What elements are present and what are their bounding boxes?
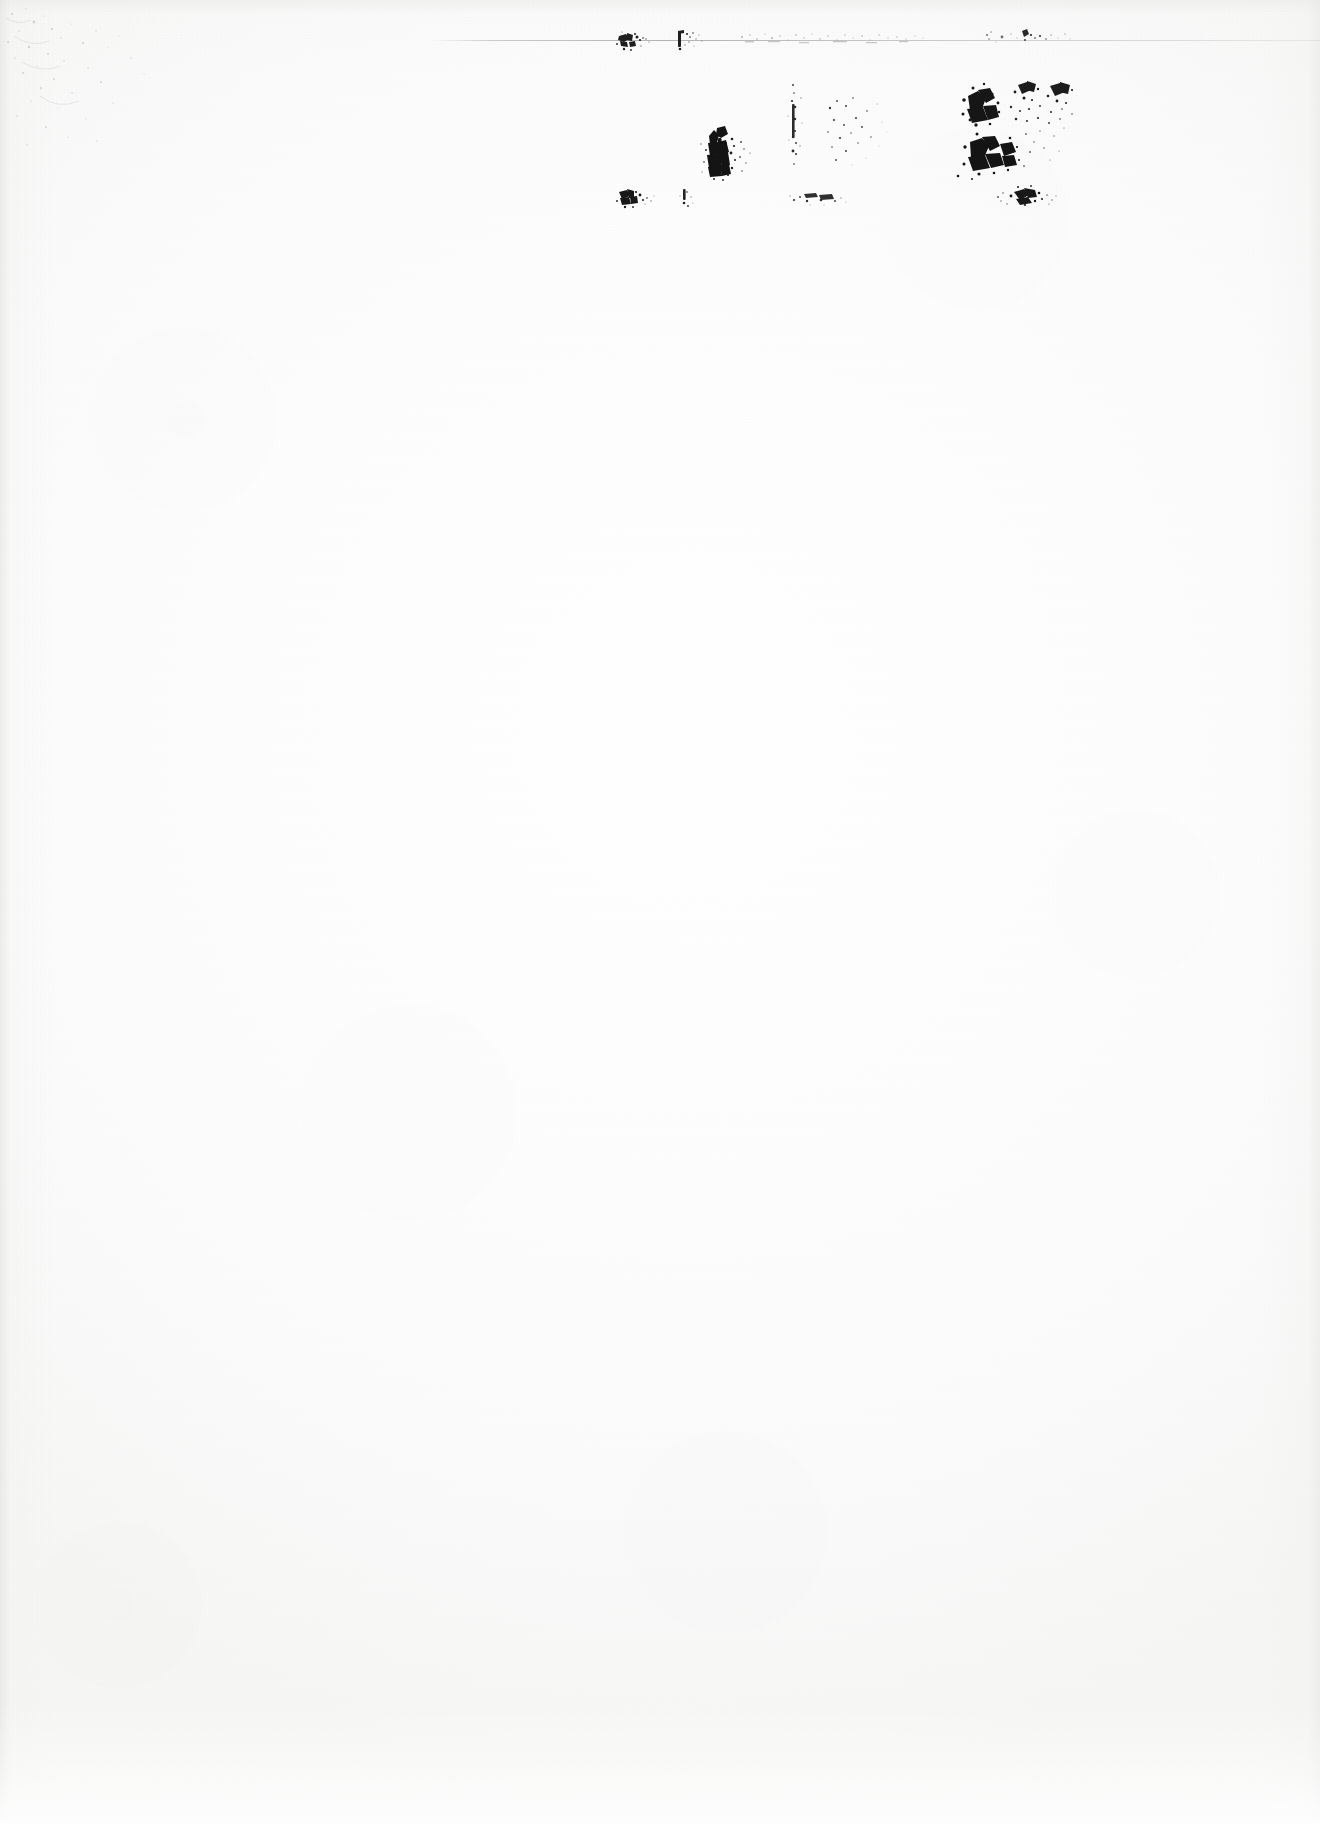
fragment-r2c1 (698, 122, 756, 186)
fragment-r3c2 (678, 186, 698, 210)
scanned-page: Scanned page, almost entirely blank. A s… (0, 0, 1320, 1824)
fragment-r3c4 (992, 184, 1062, 210)
fragment-r2c4 (954, 76, 1080, 182)
fragment-r3c1 (616, 186, 658, 210)
fragment-r2c3 (822, 92, 894, 172)
fragment-r1c3 (738, 28, 928, 50)
fragment-r2c2 (786, 80, 816, 172)
fragment-r1c4 (978, 26, 1074, 52)
fragment-r1c1 (616, 30, 654, 54)
fragment-r1c2 (674, 28, 708, 54)
fragment-r3c3 (788, 188, 852, 210)
degraded-text-block (0, 0, 1320, 1824)
scan-edge-bottom (0, 1704, 1320, 1824)
